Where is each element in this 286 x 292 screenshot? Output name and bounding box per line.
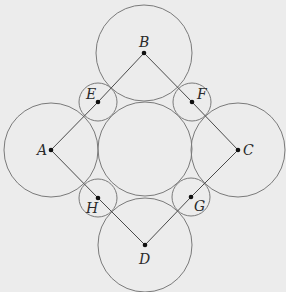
label-H: H bbox=[85, 200, 99, 216]
point-C bbox=[236, 148, 241, 153]
point-E bbox=[96, 100, 101, 105]
label-E: E bbox=[85, 86, 96, 102]
point-B bbox=[142, 51, 147, 56]
point-labels: A B C D E F G H bbox=[35, 34, 254, 267]
point-A bbox=[49, 148, 54, 153]
diagram-canvas: A B C D E F G H bbox=[0, 0, 286, 292]
label-C: C bbox=[243, 142, 254, 158]
tangent-circles-diagram: A B C D E F G H bbox=[0, 0, 286, 292]
label-D: D bbox=[138, 251, 150, 267]
label-F: F bbox=[196, 86, 208, 102]
point-F bbox=[190, 100, 195, 105]
point-G bbox=[189, 195, 194, 200]
label-A: A bbox=[35, 142, 47, 158]
points bbox=[49, 51, 241, 248]
segment-DH bbox=[98, 198, 145, 245]
segment-CG bbox=[191, 150, 238, 197]
label-B: B bbox=[138, 34, 149, 50]
label-G: G bbox=[194, 198, 205, 214]
connecting-segments bbox=[51, 53, 238, 245]
point-D bbox=[143, 243, 148, 248]
circle-center bbox=[98, 102, 192, 196]
